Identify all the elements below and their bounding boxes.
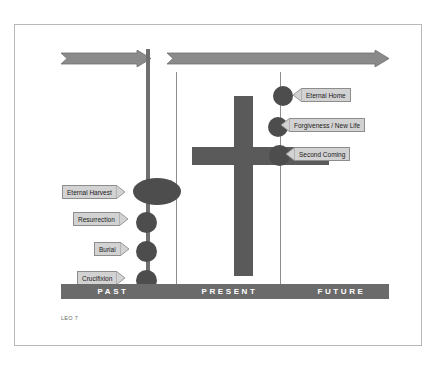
marker-resurrection — [136, 212, 157, 233]
footer-caption: LEO 7 — [61, 315, 78, 321]
era-bar: PAST PRESENT FUTURE — [61, 284, 389, 299]
callout-burial-label: Burial — [94, 242, 120, 256]
arrow-right-icon — [120, 242, 129, 256]
present-future-divider-b — [280, 72, 281, 299]
cross-vertical-beam — [234, 96, 253, 276]
past-timeline-arrow — [61, 50, 151, 67]
future-timeline-arrow — [167, 50, 389, 67]
callout-eternal-harvest[interactable]: Eternal Harvest — [62, 185, 125, 199]
slide-frame: Eternal Harvest Resurrection Burial Cruc… — [14, 24, 422, 346]
callout-second-coming-label: Second Coming — [295, 147, 350, 161]
marker-eternal-harvest — [133, 178, 181, 205]
arrow-left-icon — [286, 147, 295, 161]
era-label-present: PRESENT — [165, 284, 294, 299]
callout-crucifixion[interactable]: Crucifixion — [77, 271, 125, 285]
callout-resurrection[interactable]: Resurrection — [73, 212, 128, 226]
callout-burial[interactable]: Burial — [94, 242, 129, 256]
callout-eternal-harvest-label: Eternal Harvest — [62, 185, 116, 199]
callout-eternal-home-label: Eternal Home — [302, 88, 351, 102]
era-label-past: PAST — [61, 284, 165, 299]
callout-eternal-home[interactable]: Eternal Home — [293, 88, 351, 102]
callout-forgiveness-new-life[interactable]: Forgiveness / New Life — [281, 118, 365, 132]
era-label-future: FUTURE — [294, 284, 389, 299]
arrow-right-icon — [116, 271, 125, 285]
diagram-canvas: Eternal Harvest Resurrection Burial Cruc… — [15, 25, 421, 345]
arrow-left-icon — [293, 88, 302, 102]
marker-burial — [136, 241, 157, 262]
callout-resurrection-label: Resurrection — [73, 212, 119, 226]
arrow-right-icon — [119, 212, 128, 226]
marker-eternal-home — [273, 86, 293, 106]
callout-second-coming[interactable]: Second Coming — [286, 147, 350, 161]
arrow-right-icon — [116, 185, 125, 199]
callout-forgiveness-new-life-label: Forgiveness / New Life — [290, 118, 365, 132]
callout-crucifixion-label: Crucifixion — [77, 271, 116, 285]
arrow-left-icon — [281, 118, 290, 132]
